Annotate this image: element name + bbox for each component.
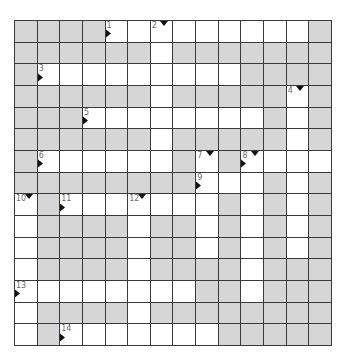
grid-cell-open[interactable] (128, 151, 151, 173)
arrow-right-icon (38, 73, 43, 81)
grid-cell-open[interactable] (15, 216, 38, 238)
grid-cell-open[interactable] (241, 216, 264, 238)
grid-cell-open[interactable] (83, 64, 106, 86)
grid-cell-open[interactable] (60, 281, 83, 303)
grid-cell-open[interactable] (241, 238, 264, 260)
grid-cell-open[interactable] (151, 86, 174, 108)
grid-cell-open[interactable]: 10 (15, 194, 38, 216)
grid-cell-open[interactable] (219, 173, 242, 195)
grid-cell-open[interactable] (128, 238, 151, 260)
grid-cell-open[interactable] (106, 324, 129, 346)
grid-cell-open[interactable] (287, 151, 310, 173)
grid-cell-open[interactable] (15, 303, 38, 325)
grid-cell-open[interactable] (60, 151, 83, 173)
grid-cell-open[interactable] (264, 21, 287, 43)
grid-cell-open[interactable] (128, 324, 151, 346)
grid-cell-open[interactable] (83, 324, 106, 346)
grid-cell-open[interactable] (151, 64, 174, 86)
grid-cell-open[interactable] (173, 324, 196, 346)
grid-cell-open[interactable] (60, 64, 83, 86)
grid-cell-open[interactable] (219, 21, 242, 43)
grid-cell-open[interactable] (38, 281, 61, 303)
grid-cell-open[interactable] (196, 324, 219, 346)
grid-cell-open[interactable] (219, 108, 242, 130)
grid-cell-open[interactable] (287, 173, 310, 195)
grid-cell-open[interactable] (151, 108, 174, 130)
grid-cell-open[interactable] (128, 108, 151, 130)
grid-cell-block (38, 86, 61, 108)
grid-cell-open[interactable] (173, 108, 196, 130)
grid-cell-open[interactable]: 9 (196, 173, 219, 195)
grid-cell-open[interactable] (287, 21, 310, 43)
grid-cell-open[interactable] (128, 64, 151, 86)
grid-cell-open[interactable] (128, 21, 151, 43)
grid-cell-block (106, 238, 129, 260)
grid-cell-open[interactable]: 8 (241, 151, 264, 173)
grid-cell-open[interactable] (241, 173, 264, 195)
grid-cell-block (219, 324, 242, 346)
grid-cell-block (128, 173, 151, 195)
grid-cell-open[interactable] (287, 108, 310, 130)
grid-cell-open[interactable]: 5 (83, 108, 106, 130)
grid-cell-open[interactable] (173, 64, 196, 86)
grid-cell-open[interactable] (173, 21, 196, 43)
grid-cell-open[interactable] (106, 64, 129, 86)
grid-cell-open[interactable] (173, 194, 196, 216)
grid-cell-open[interactable] (287, 194, 310, 216)
grid-cell-open[interactable] (196, 108, 219, 130)
grid-cell-block (264, 281, 287, 303)
grid-cell-open[interactable] (128, 281, 151, 303)
grid-cell-open[interactable] (241, 21, 264, 43)
grid-cell-open[interactable]: 11 (60, 194, 83, 216)
grid-cell-open[interactable]: 14 (60, 324, 83, 346)
grid-cell-open[interactable] (106, 108, 129, 130)
grid-cell-open[interactable] (106, 281, 129, 303)
grid-cell-open[interactable] (83, 194, 106, 216)
grid-cell-open[interactable]: 1 (106, 21, 129, 43)
grid-cell-open[interactable] (128, 303, 151, 325)
clue-number: 5 (84, 108, 89, 117)
grid-cell-open[interactable] (15, 324, 38, 346)
grid-cell-open[interactable] (151, 43, 174, 65)
grid-cell-block (309, 21, 332, 43)
grid-cell-open[interactable]: 7 (196, 151, 219, 173)
grid-cell-open[interactable] (151, 324, 174, 346)
grid-cell-open[interactable] (173, 281, 196, 303)
grid-cell-open[interactable] (264, 151, 287, 173)
grid-cell-open[interactable] (241, 194, 264, 216)
grid-cell-open[interactable] (151, 281, 174, 303)
grid-cell-open[interactable] (151, 129, 174, 151)
grid-cell-open[interactable] (106, 151, 129, 173)
grid-cell-open[interactable] (83, 281, 106, 303)
grid-cell-open[interactable]: 6 (38, 151, 61, 173)
grid-cell-open[interactable]: 3 (38, 64, 61, 86)
grid-cell-open[interactable] (106, 194, 129, 216)
grid-cell-open[interactable] (241, 108, 264, 130)
grid-cell-open[interactable] (287, 238, 310, 260)
grid-cell-open[interactable] (128, 259, 151, 281)
grid-cell-open[interactable]: 13 (15, 281, 38, 303)
grid-cell-open[interactable] (287, 216, 310, 238)
grid-cell-open[interactable] (241, 259, 264, 281)
grid-cell-open[interactable] (309, 151, 332, 173)
grid-cell-open[interactable] (83, 151, 106, 173)
grid-cell-open[interactable] (241, 281, 264, 303)
grid-cell-open[interactable] (128, 216, 151, 238)
arrow-right-icon (38, 160, 43, 168)
grid-cell-open[interactable] (151, 151, 174, 173)
grid-cell-open[interactable] (196, 216, 219, 238)
grid-cell-open[interactable] (151, 194, 174, 216)
grid-cell-open[interactable] (219, 64, 242, 86)
grid-cell-open[interactable] (196, 194, 219, 216)
grid-cell-open[interactable]: 4 (287, 86, 310, 108)
grid-cell-open[interactable] (196, 238, 219, 260)
grid-cell-open[interactable] (15, 259, 38, 281)
crossword-grid: 1234567891011121314 (14, 20, 332, 346)
grid-cell-open[interactable] (287, 129, 310, 151)
grid-cell-block (128, 129, 151, 151)
grid-cell-open[interactable] (196, 21, 219, 43)
grid-cell-open[interactable] (196, 64, 219, 86)
grid-cell-open[interactable]: 12 (128, 194, 151, 216)
grid-cell-open[interactable] (15, 238, 38, 260)
grid-cell-open[interactable]: 2 (151, 21, 174, 43)
